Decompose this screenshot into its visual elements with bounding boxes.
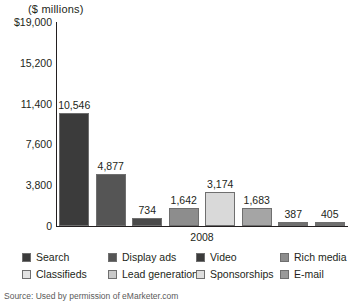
- bar-display-ads: [96, 174, 126, 226]
- legend-swatch-icon: [108, 270, 117, 279]
- y-axis-tick-11400: 11,400: [0, 98, 52, 110]
- bar-search: [59, 113, 89, 226]
- y-axis-tick-15200: 15,200: [0, 57, 52, 69]
- bar-classifieds: [132, 218, 162, 226]
- legend-label: Display ads: [122, 252, 176, 263]
- legend-swatch-icon: [196, 253, 205, 262]
- legend-item-sponsorships[interactable]: Sponsorships: [196, 269, 274, 280]
- chart-legend: SearchDisplay adsVideoRich mediaClassifi…: [0, 252, 352, 290]
- bar-value-label: 3,174: [207, 178, 233, 190]
- source-note: Source: Used by permission of eMarketer.…: [4, 291, 178, 301]
- legend-item-display-ads[interactable]: Display ads: [108, 252, 176, 263]
- bar-value-label: 4,877: [98, 160, 124, 172]
- legend-label: E-mail: [294, 269, 324, 280]
- bar-e-mail: [315, 222, 345, 226]
- bars-layer: 10,5464,8777341,6423,1741,683387405: [56, 22, 348, 226]
- bar-sponsorships: [278, 222, 308, 226]
- bar-value-label: 405: [321, 208, 339, 220]
- legend-item-classifieds[interactable]: Classifieds: [22, 269, 87, 280]
- legend-label: Search: [36, 252, 69, 263]
- bar-rich-media: [242, 208, 272, 226]
- legend-label: Video: [210, 252, 237, 263]
- bar-value-label: 387: [284, 208, 302, 220]
- bar-chart: ($ millions) 03,8007,60011,40015,200$19,…: [0, 0, 352, 306]
- y-axis-tick-19000: $19,000: [0, 16, 52, 28]
- legend-label: Sponsorships: [210, 269, 274, 280]
- legend-swatch-icon: [22, 270, 31, 279]
- legend-item-search[interactable]: Search: [22, 252, 69, 263]
- bar-value-label: 1,683: [244, 194, 270, 206]
- legend-swatch-icon: [196, 270, 205, 279]
- legend-item-rich-media[interactable]: Rich media: [280, 252, 347, 263]
- legend-item-video[interactable]: Video: [196, 252, 237, 263]
- bar-value-label: 1,642: [171, 194, 197, 206]
- legend-item-lead-generation[interactable]: Lead generation: [108, 269, 198, 280]
- legend-swatch-icon: [22, 253, 31, 262]
- x-axis-category-label: 2008: [190, 231, 213, 243]
- legend-label: Lead generation: [122, 269, 198, 280]
- legend-label: Rich media: [294, 252, 347, 263]
- legend-swatch-icon: [108, 253, 117, 262]
- y-axis-tick-0: 0: [0, 220, 52, 232]
- legend-label: Classifieds: [36, 269, 87, 280]
- y-axis-tick-7600: 7,600: [0, 138, 52, 150]
- x-axis-line: [56, 226, 348, 227]
- bar-value-label: 734: [138, 204, 156, 216]
- bar-video: [205, 192, 235, 226]
- y-axis-tick-3800: 3,800: [0, 179, 52, 191]
- legend-item-e-mail[interactable]: E-mail: [280, 269, 324, 280]
- bar-lead-generation: [169, 208, 199, 226]
- legend-swatch-icon: [280, 270, 289, 279]
- bar-value-label: 10,546: [58, 99, 90, 111]
- legend-swatch-icon: [280, 253, 289, 262]
